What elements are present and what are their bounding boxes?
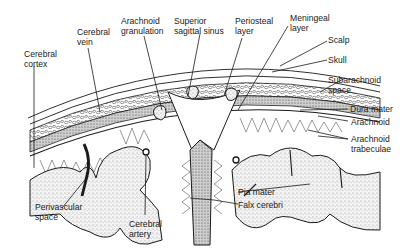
cerebral-artery-shape [143, 149, 149, 155]
label-cerebral-cortex: Cerebral cortex [24, 49, 57, 69]
label-cerebral-vein: Cerebral vein [77, 27, 110, 47]
label-subarachnoid-space: Subarachnoid space [328, 75, 381, 95]
label-arachnoid: Arachnoid [351, 117, 390, 127]
falx-cerebri-shape [190, 140, 212, 245]
label-pia-mater: Pia mater [238, 187, 275, 197]
label-meningeal-layer: Meningeal layer [290, 13, 330, 33]
label-arachnoid-granulation: Arachnoid granulation [121, 16, 164, 36]
label-periosteal-layer: Periosteal layer [235, 16, 273, 36]
label-skull: Skull [328, 55, 347, 65]
label-scalp: Scalp [328, 35, 350, 45]
label-arachnoid-trabeculae: Arachnoid trabeculae [351, 134, 391, 154]
label-superior-sagittal-sinus: Superior sagittal sinus [174, 16, 224, 36]
label-cerebral-artery: Cerebral artery [129, 219, 162, 239]
label-dura-mater: Dura mater [350, 104, 393, 114]
label-perivascular-space: Perivascular space [35, 202, 82, 222]
label-falx-cerebri: Falx cerebri [238, 200, 283, 210]
